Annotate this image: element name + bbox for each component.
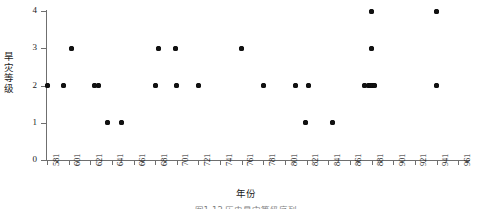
x-tick — [285, 161, 286, 165]
figure-caption: 图1-12 历史旱灾等级序列 — [0, 203, 492, 209]
y-axis-title: 旱灾等级 — [2, 52, 15, 94]
x-tick — [372, 161, 373, 165]
x-tick-label: 821 — [310, 154, 320, 166]
x-tick — [198, 161, 199, 165]
data-point — [369, 46, 374, 51]
x-tick — [458, 161, 459, 165]
x-tick — [437, 161, 438, 165]
y-tick — [41, 123, 46, 124]
data-point — [261, 83, 266, 88]
x-tick-label: 941 — [440, 154, 450, 166]
x-tick-label: 961 — [462, 154, 472, 166]
y-tick-label: 3 — [23, 43, 37, 52]
y-tick — [41, 11, 46, 12]
x-tick — [328, 161, 329, 165]
x-tick-label: 741 — [224, 154, 234, 166]
y-tick-label: 2 — [23, 81, 37, 90]
x-tick — [134, 161, 135, 165]
x-tick — [307, 161, 308, 165]
x-tick-label: 581 — [51, 154, 61, 166]
x-tick — [220, 161, 221, 165]
x-axis-title: 年份 — [236, 186, 256, 200]
data-point — [153, 83, 158, 88]
data-point — [196, 83, 201, 88]
x-tick-label: 841 — [332, 154, 342, 166]
x-tick-label: 621 — [94, 154, 104, 166]
data-point — [173, 46, 178, 51]
x-tick — [112, 161, 113, 165]
x-tick-label: 761 — [245, 154, 255, 166]
y-tick-label: 1 — [23, 118, 37, 127]
x-tick-label: 881 — [375, 154, 385, 166]
y-tick-label: 0 — [23, 155, 37, 164]
x-tick — [393, 161, 394, 165]
x-tick-label: 681 — [159, 154, 169, 166]
y-tick — [41, 48, 46, 49]
data-point — [61, 83, 66, 88]
x-tick-label: 661 — [137, 154, 147, 166]
data-point — [434, 83, 439, 88]
x-tick-label: 601 — [72, 154, 82, 166]
x-tick — [90, 161, 91, 165]
drought-grade-scatter-figure: 旱灾等级 年份 图1-12 历史旱灾等级序列 01234581601621641… — [0, 0, 492, 209]
x-tick-label: 801 — [289, 154, 299, 166]
x-tick — [263, 161, 264, 165]
x-tick — [47, 161, 48, 165]
x-tick-label: 781 — [267, 154, 277, 166]
y-tick-label: 4 — [23, 6, 37, 15]
x-tick — [350, 161, 351, 165]
x-tick-label: 901 — [397, 154, 407, 166]
data-point — [369, 9, 374, 14]
data-point — [434, 9, 439, 14]
x-tick-label: 721 — [202, 154, 212, 166]
x-tick-label: 921 — [418, 154, 428, 166]
x-tick-label: 701 — [180, 154, 190, 166]
plot-area — [47, 11, 469, 160]
x-tick — [155, 161, 156, 165]
data-point — [45, 83, 50, 88]
x-tick-label: 861 — [353, 154, 363, 166]
y-tick — [41, 160, 46, 161]
x-tick — [69, 161, 70, 165]
x-tick — [242, 161, 243, 165]
x-tick — [177, 161, 178, 165]
x-tick-label: 641 — [115, 154, 125, 166]
data-point — [156, 46, 161, 51]
x-tick — [415, 161, 416, 165]
